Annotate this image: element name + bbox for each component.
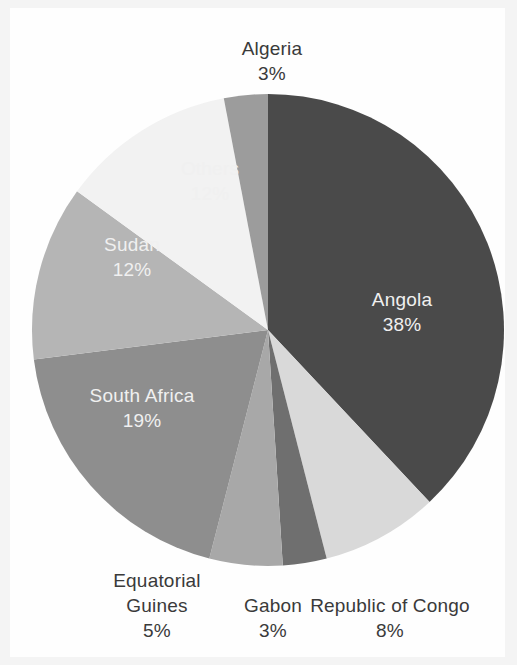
pie-label-sudan-value: 12% [72,257,192,282]
pie-label-equatorial-guines-name: EquatorialGuines [113,570,201,616]
pie-label-algeria-name: Algeria [242,38,303,59]
pie-label-others-name: Others [181,158,239,179]
pie-label-sudan-name: Sudan [104,234,160,255]
pie-chart-figure: Algeria 3% Others 12% Sudan 12% South Af… [0,0,517,665]
pie-label-south-africa-name: South Africa [90,385,195,406]
pie-label-south-africa: South Africa 19% [62,383,222,433]
pie-label-angola: Angola 38% [337,287,467,337]
pie-label-republic-of-congo-name: Republic of Congo [310,595,470,616]
pie-label-others-value: 12% [150,181,270,206]
pie-label-sudan: Sudan 12% [72,232,192,282]
pie-label-angola-value: 38% [337,312,467,337]
pie-label-south-africa-value: 19% [62,408,222,433]
pie-label-republic-of-congo-value: 8% [300,618,480,643]
pie-label-algeria: Algeria 3% [212,36,332,86]
pie-label-gabon-name: Gabon [244,595,302,616]
pie-label-equatorial-guines-value: 5% [87,618,227,643]
pie-label-algeria-value: 3% [212,61,332,86]
pie-label-republic-of-congo: Republic of Congo 8% [300,593,480,643]
pie-label-equatorial-guines: EquatorialGuines 5% [87,568,227,643]
pie-label-others: Others 12% [150,156,270,206]
pie-label-angola-name: Angola [372,289,432,310]
